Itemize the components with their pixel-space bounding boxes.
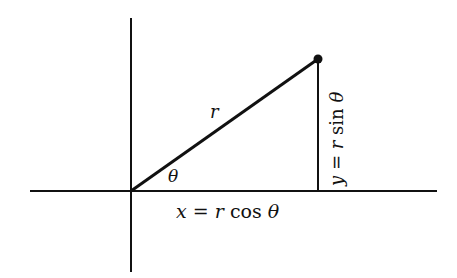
y-r-var: r	[326, 139, 347, 149]
y-theta: θ	[326, 92, 347, 103]
y-sin: sin	[326, 108, 347, 135]
x-equals: =	[193, 200, 209, 222]
x-theta: θ	[268, 200, 280, 222]
radius-line	[131, 59, 318, 191]
x-cos: cos	[230, 200, 262, 222]
y-equation-label: y = r sin θ	[326, 92, 347, 187]
angle-label: θ	[168, 166, 178, 186]
x-r-var: r	[215, 200, 226, 222]
point-marker	[314, 55, 323, 64]
x-equation-label: x = r cos θ	[176, 200, 280, 222]
y-equals: =	[326, 155, 347, 170]
x-var: x	[176, 200, 187, 222]
y-var: y	[326, 175, 347, 187]
radius-label: r	[210, 101, 220, 122]
polar-coordinates-diagram: r θ x = r cos θ y = r sin θ	[0, 0, 457, 278]
